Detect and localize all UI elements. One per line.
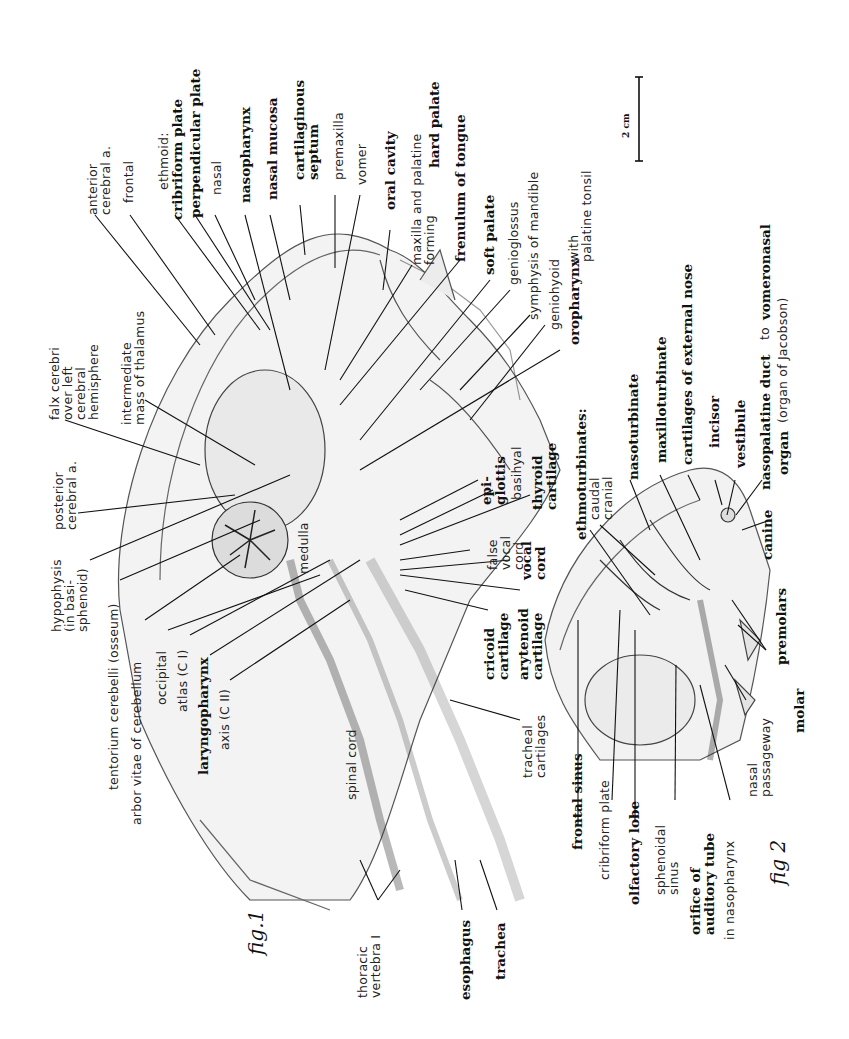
label-cricoid-cartilage: cricoid cartilage bbox=[482, 613, 510, 680]
label-oropharynx: oropharynx bbox=[567, 259, 581, 345]
label-frontal: frontal bbox=[122, 161, 135, 203]
label-canine: canine bbox=[760, 510, 774, 560]
label-trachea: trachea bbox=[493, 923, 507, 980]
fig1-head-illustration bbox=[118, 234, 560, 910]
label-frenulum-of-tongue: frenulum of tongue bbox=[453, 115, 467, 262]
label-cartilages-external-nose: cartilages of external nose bbox=[680, 264, 694, 465]
label-orifice-auditory-tube: orifice of auditory tube bbox=[688, 833, 716, 935]
label-incisor: incisor bbox=[707, 396, 721, 448]
label-maxilloturbinate: maxilloturbinate bbox=[654, 336, 668, 463]
label-molar: molar bbox=[792, 689, 806, 733]
label-cribriform-plate: cribriform plate bbox=[170, 99, 184, 220]
label-axis: axis (C II) bbox=[218, 689, 231, 750]
label-palatine-tonsil: with palatine tonsil bbox=[567, 170, 593, 262]
label-hypophysis: hypophysis (in basi- sphenoid) bbox=[50, 559, 89, 632]
label-frontal-sinus: frontal sinus bbox=[570, 753, 584, 850]
label-symphysis-of-mandible: symphysis of mandible bbox=[527, 172, 540, 320]
label-arbor-vitae: arbor vitae of cerebellum bbox=[130, 662, 143, 825]
label-occipital: occipital bbox=[155, 651, 168, 705]
label-oral-cavity: oral cavity bbox=[383, 131, 397, 210]
label-vocal-cord: vocal cord bbox=[519, 541, 547, 580]
label-premolars: premolars bbox=[774, 588, 788, 665]
label-thyroid-cartilage: thyroid cartilage bbox=[530, 443, 558, 510]
label-organ: organ bbox=[776, 431, 790, 475]
label-nasopalatine-duct: nasopalatine duct bbox=[758, 355, 772, 490]
anatomical-plate: 2 cm fig.1 fig 2 anterior cerebral a. fr… bbox=[0, 0, 849, 1039]
label-perpendicular-plate: perpendicular plate bbox=[188, 69, 202, 218]
label-to: to bbox=[758, 327, 771, 340]
scale-bar bbox=[635, 77, 643, 161]
label-medulla: medulla bbox=[297, 522, 310, 574]
fig1-caption: fig.1 bbox=[246, 910, 267, 955]
label-atlas: atlas (C I) bbox=[176, 649, 189, 712]
label-hard-palate: hard palate bbox=[427, 81, 441, 168]
label-laryngopharynx: laryngopharynx bbox=[196, 657, 210, 775]
label-nasal: nasal bbox=[210, 161, 223, 195]
label-posterior-cerebral-artery: posterior cerebral a. bbox=[52, 461, 78, 530]
label-tracheal-cartilages: tracheal cartilages bbox=[521, 715, 547, 778]
label-basihyal: basihyal bbox=[510, 446, 523, 500]
label-vomeronasal: vomeronasal bbox=[758, 224, 772, 320]
label-thoracic-vertebra: thoracic vertebra I bbox=[356, 935, 382, 998]
label-epiglottis: epi- glottis bbox=[479, 456, 507, 505]
label-anterior-cerebral-artery: anterior cerebral a. bbox=[86, 146, 112, 215]
label-nasal-passageway: nasal passageway bbox=[746, 718, 772, 797]
scale-bar-label: 2 cm bbox=[622, 114, 631, 138]
label-spinal-cord: spinal cord bbox=[345, 729, 358, 800]
fig2-caption: fig 2 bbox=[768, 840, 789, 885]
label-vestibule: vestibule bbox=[733, 400, 747, 468]
label-soft-palate: soft palate bbox=[482, 195, 496, 275]
label-organ-of-jacobson: (organ of Jacobson) bbox=[776, 297, 789, 423]
label-tentorium-cerebelli: tentorium cerebelli (osseum) bbox=[107, 603, 120, 790]
label-sphenoidal-sinus: sphenoidal sinus bbox=[654, 825, 680, 895]
label-olfactory-lobe: olfactory lobe bbox=[627, 801, 641, 905]
label-vomer: vomer bbox=[355, 144, 368, 185]
label-in-nasopharynx: in nasopharynx bbox=[723, 841, 736, 940]
label-nasal-mucosa: nasal mucosa bbox=[265, 98, 279, 200]
label-nasoturbinate: nasoturbinate bbox=[626, 374, 640, 480]
label-geniohyoid: geniohyoid bbox=[548, 259, 561, 330]
label-cartilaginous-septum: cartilaginous septum bbox=[292, 80, 320, 180]
label-arytenoid-cartilage: arytenoid cartilage bbox=[516, 608, 544, 680]
label-ethmoturbinates: ethmoturbinates: bbox=[574, 408, 588, 540]
label-genioglossus: genioglossus bbox=[507, 201, 520, 285]
label-falx-cerebri: falx cerebri over left cerebral hemisphe… bbox=[48, 344, 101, 420]
label-nasopharynx: nasopharynx bbox=[238, 107, 252, 203]
label-cribriform-plate-fig2: cribriform plate bbox=[598, 780, 611, 880]
label-esophagus: esophagus bbox=[458, 920, 472, 1000]
label-premaxilla: premaxilla bbox=[332, 112, 345, 180]
label-caudal-cranial: caudal cranial bbox=[588, 476, 614, 520]
label-intermediate-mass-thalamus: intermediate mass of thalamus bbox=[120, 311, 146, 425]
